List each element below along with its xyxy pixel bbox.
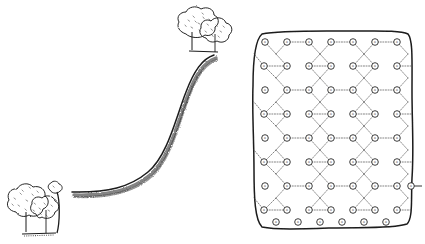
lattice-node[interactable]: o [383, 219, 390, 226]
lattice-node[interactable]: o [328, 207, 335, 214]
lattice-node[interactable]: o [328, 87, 335, 94]
lattice-node[interactable]: o [295, 219, 302, 226]
lower-ground-line [22, 233, 56, 234]
lattice-node[interactable]: o [372, 87, 379, 94]
lattice-node[interactable]: o [261, 159, 268, 166]
lattice-node[interactable]: o [394, 39, 401, 46]
lattice-node[interactable]: o [306, 207, 313, 214]
lattice-node[interactable]: o [284, 63, 291, 70]
lattice-node[interactable]: o [372, 135, 379, 142]
lattice-node[interactable]: o [262, 183, 269, 190]
lattice-node[interactable]: o [261, 63, 268, 70]
lattice-node[interactable]: o [394, 111, 401, 118]
lattice-node[interactable]: o [262, 39, 269, 46]
lattice-node[interactable]: o [350, 39, 357, 46]
lattice-node[interactable]: o [372, 63, 379, 70]
illustration-svg: o o o o o o o o o o o o o o o o o o [0, 0, 425, 244]
lattice-node[interactable]: o [306, 159, 313, 166]
lattice-node[interactable]: o [262, 135, 269, 142]
lattice-node[interactable]: o [306, 87, 313, 94]
lattice-node[interactable]: o [284, 183, 291, 190]
lattice-node[interactable]: o [350, 159, 357, 166]
lattice-node[interactable]: o [284, 135, 291, 142]
lower-tree [7, 181, 62, 236]
lattice-node[interactable]: o [350, 63, 357, 70]
lattice-node[interactable]: o [328, 135, 335, 142]
lattice-node[interactable]: o [350, 135, 357, 142]
lattice-node[interactable]: o [372, 39, 379, 46]
lattice-node[interactable]: o [394, 183, 401, 190]
lattice-node[interactable]: o [284, 87, 291, 94]
upper-tree-foliage-texture [185, 13, 224, 37]
upper-tree [178, 7, 232, 52]
lattice-node[interactable]: o [284, 159, 291, 166]
lattice-node[interactable]: o [339, 219, 346, 226]
path-shadow [74, 58, 217, 197]
lattice-nodes: o o o o o o o o o o o o o o o o o o [261, 39, 415, 226]
lattice-node[interactable]: o [328, 183, 335, 190]
tree-path-scene [7, 7, 231, 236]
hexagonal-lattice-field: o o o o o o o o o o o o o o o o o o [253, 31, 422, 229]
lattice-node[interactable]: o [350, 183, 357, 190]
lattice-node[interactable]: o [306, 111, 313, 118]
upper-ground-line [189, 51, 218, 52]
lattice-node[interactable]: o [350, 111, 357, 118]
lattice-node[interactable]: o [261, 111, 268, 118]
lattice-node[interactable]: o [306, 183, 313, 190]
lattice-node[interactable]: o [273, 219, 280, 226]
lattice-node[interactable]: o [361, 219, 368, 226]
lattice-node[interactable]: o [372, 207, 379, 214]
lattice-node[interactable]: o [394, 87, 401, 94]
lattice-node[interactable]: o [284, 111, 291, 118]
lattice-node[interactable]: o [328, 111, 335, 118]
lattice-node[interactable]: o [394, 135, 401, 142]
lattice-node[interactable]: o [317, 219, 324, 226]
lattice-node[interactable]: o [350, 87, 357, 94]
lattice-node[interactable]: o [328, 63, 335, 70]
lattice-node[interactable]: o [306, 63, 313, 70]
lattice-node[interactable]: o [372, 111, 379, 118]
curved-path [72, 55, 214, 192]
lattice-node[interactable]: o [306, 135, 313, 142]
lattice-node[interactable]: o [372, 159, 379, 166]
lattice-node[interactable]: o [261, 207, 268, 214]
lattice-node[interactable]: o [394, 207, 401, 214]
sketch-canvas: o o o o o o o o o o o o o o o o o o [0, 0, 425, 244]
lattice-node[interactable]: o [350, 207, 357, 214]
field-outline [253, 31, 413, 229]
lattice-node[interactable]: o [394, 159, 401, 166]
lattice-node[interactable]: o [408, 183, 415, 190]
lattice-node[interactable]: o [372, 183, 379, 190]
lattice-node[interactable]: o [328, 159, 335, 166]
lattice-node[interactable]: o [284, 39, 291, 46]
lattice-node[interactable]: o [284, 207, 291, 214]
lattice-node[interactable]: o [306, 39, 313, 46]
lattice-node[interactable]: o [394, 63, 401, 70]
lattice-node[interactable]: o [328, 39, 335, 46]
lattice-node[interactable]: o [262, 87, 269, 94]
